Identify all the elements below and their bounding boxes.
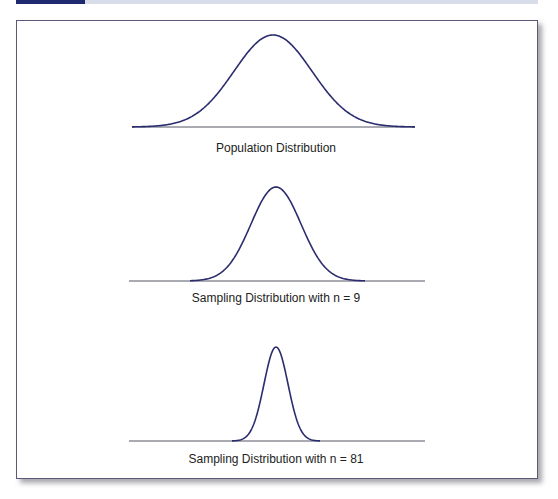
sampling-n9-label: Sampling Distribution with n = 9 <box>192 291 360 305</box>
distribution-plot <box>0 0 558 499</box>
sampling-n81-label: Sampling Distribution with n = 81 <box>188 452 363 466</box>
population-distribution-label: Population Distribution <box>216 141 336 155</box>
sampling-n9-curve-group <box>129 187 425 281</box>
sampling-n81-curve <box>232 347 320 441</box>
sampling-n81-curve-group <box>129 347 425 441</box>
sampling-n9-curve <box>190 187 365 281</box>
population-distribution-curve-group <box>132 35 415 127</box>
population-curve <box>132 35 415 127</box>
